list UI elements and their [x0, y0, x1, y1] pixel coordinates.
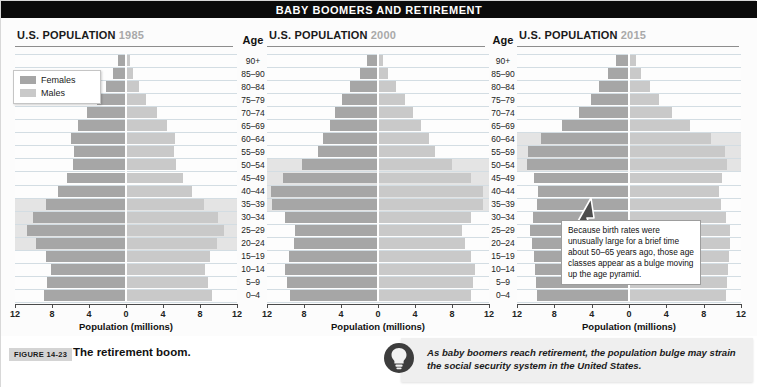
x-tick-label: 8 [197, 309, 202, 319]
x-tick-label: 12 [262, 309, 272, 319]
bar-males [629, 173, 722, 184]
x-tick [704, 304, 705, 308]
x-tick-label: 4 [589, 309, 594, 319]
bar-females [44, 290, 126, 301]
x-tick [52, 304, 53, 308]
bar-females [287, 277, 378, 288]
bar-males [126, 146, 174, 157]
x-tick [378, 304, 379, 308]
x-tick-label: 8 [301, 309, 306, 319]
bar-females [342, 94, 378, 105]
bar-females [538, 186, 629, 197]
bar-females [46, 199, 126, 210]
bar-males [378, 173, 471, 184]
bar-males [126, 68, 133, 79]
bar-females [58, 186, 126, 197]
gridline [15, 302, 237, 303]
bar-males [378, 199, 483, 210]
x-tick [629, 304, 630, 308]
panel-title-text: U.S. POPULATION [17, 29, 116, 41]
bar-females [106, 81, 126, 92]
legend-item-females: Females [20, 75, 76, 85]
bar-males [126, 133, 175, 144]
lightbulb-icon [383, 342, 415, 374]
legend-item-males: Males [20, 88, 65, 98]
bar-males [126, 173, 183, 184]
bar-females [541, 133, 629, 144]
bar-females [318, 146, 378, 157]
bar-males [378, 251, 471, 262]
panel-title-1985: U.S. POPULATION1985 [17, 29, 144, 41]
bar-males [629, 290, 726, 301]
x-tick [741, 304, 742, 308]
bar-males [126, 264, 205, 275]
x-tick-label: 4 [338, 309, 343, 319]
bar-males [629, 120, 690, 131]
bar-males [629, 146, 725, 157]
bar-females [113, 68, 126, 79]
panel-title-text: U.S. POPULATION [269, 29, 368, 41]
panel-title-2015: U.S. POPULATION2015 [519, 29, 646, 41]
x-tick [267, 304, 268, 308]
bar-females [271, 186, 378, 197]
bar-females [289, 251, 378, 262]
title-rule [517, 46, 739, 47]
bar-females [608, 68, 629, 79]
bar-males [126, 120, 167, 131]
legend: Females Males [13, 70, 101, 104]
bar-females [73, 159, 126, 170]
bar-females [527, 159, 629, 170]
bar-females [74, 146, 126, 157]
bar-females [335, 107, 378, 118]
title-rule [15, 46, 233, 47]
x-tick-label: 4 [412, 309, 417, 319]
x-tick-label: 12 [10, 309, 20, 319]
bar-females [294, 238, 378, 249]
bar-males [378, 68, 388, 79]
bar-males [126, 277, 208, 288]
title-rule [267, 46, 485, 47]
bar-males [378, 186, 483, 197]
zero-axis-line [125, 54, 127, 302]
bar-females [579, 107, 629, 118]
bar-males [126, 238, 217, 249]
bar-males [378, 94, 405, 105]
legend-label-females: Females [41, 75, 76, 85]
x-tick-label: 0 [123, 309, 128, 319]
bar-males [629, 55, 636, 66]
x-tick-label: 8 [449, 309, 454, 319]
bar-males [629, 186, 719, 197]
bar-males [378, 290, 471, 301]
bar-males [378, 277, 473, 288]
bar-males [629, 81, 650, 92]
bar-females [36, 238, 126, 249]
panel-2015: U.S. POPULATION2015 Population (millions… [509, 18, 751, 336]
bar-males [629, 107, 672, 118]
x-tick-label: 4 [86, 309, 91, 319]
bar-males [629, 159, 727, 170]
bar-females [360, 68, 378, 79]
bar-males [378, 264, 475, 275]
bar-females [562, 120, 629, 131]
bar-females [616, 55, 629, 66]
x-tick-label: 8 [49, 309, 54, 319]
panel-title-text: U.S. POPULATION [519, 29, 618, 41]
legend-swatch-males [20, 89, 36, 97]
bar-females [537, 290, 629, 301]
x-tick [592, 304, 593, 308]
x-tick [304, 304, 305, 308]
x-axis-title: Population (millions) [15, 321, 237, 332]
bar-males [378, 107, 413, 118]
x-tick-label: 12 [512, 309, 522, 319]
bar-females [285, 212, 378, 223]
x-tick [15, 304, 16, 308]
bar-females [330, 120, 378, 131]
bar-females [323, 133, 378, 144]
pyramid-plot-2000 [267, 54, 489, 302]
bar-females [295, 225, 378, 236]
x-tick [666, 304, 667, 308]
x-axis-title: Population (millions) [517, 321, 741, 332]
banner-title: BABY BOOMERS AND RETIREMENT [276, 4, 483, 16]
bar-males [126, 290, 212, 301]
